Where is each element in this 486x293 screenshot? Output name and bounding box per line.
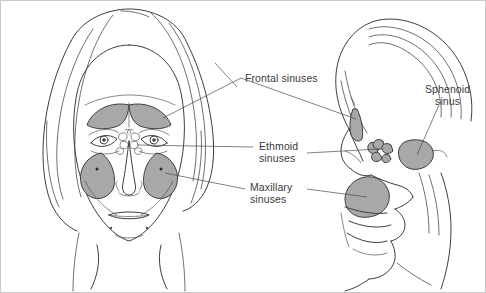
leader-frontal-sinuses-cross <box>215 63 237 87</box>
leader-frontal-sinuses <box>163 78 241 118</box>
label-frontal-sinuses: Frontal sinuses <box>245 73 318 85</box>
frontal-view-group <box>43 9 214 291</box>
label-sphenoid-sinus: Sphenoid sinus <box>425 84 470 107</box>
sinus-anatomy-figure: .s{fill:none;stroke:#3d3d3d;stroke-width… <box>0 0 486 293</box>
ethmoid-sinus-profile-shape <box>368 140 393 163</box>
label-ethmoid-sinuses: Ethmoid sinuses <box>259 141 298 164</box>
sagittal-view-group <box>336 19 472 291</box>
anatomy-illustration: .s{fill:none;stroke:#3d3d3d;stroke-width… <box>1 1 486 293</box>
label-maxillary-sinuses: Maxillary sinuses <box>250 182 292 205</box>
